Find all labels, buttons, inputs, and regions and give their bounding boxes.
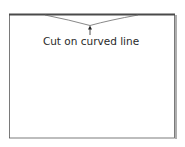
annotation-label: Cut on curved line [43,35,139,47]
cut-diagram: Cut on curved line [0,0,185,147]
paper-outline [10,15,175,139]
